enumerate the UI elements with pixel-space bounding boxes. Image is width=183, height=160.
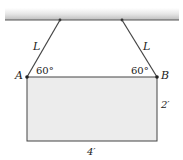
cable-left-label: L [32, 40, 40, 53]
width-dimension-label: 4′ [86, 146, 96, 157]
point-a [25, 75, 29, 79]
angle-a-label: 60° [36, 65, 54, 76]
point-b [155, 75, 159, 79]
height-dimension-label: 2′ [160, 99, 170, 110]
plate [27, 77, 157, 141]
point-a-label: A [14, 69, 23, 82]
ceiling-support [5, 8, 179, 20]
cable-right-label: L [142, 40, 150, 53]
diagram-canvas: L L A B 60° 60° 2′ 4′ [0, 0, 183, 160]
angle-b-label: 60° [131, 65, 149, 76]
point-b-label: B [160, 69, 169, 82]
